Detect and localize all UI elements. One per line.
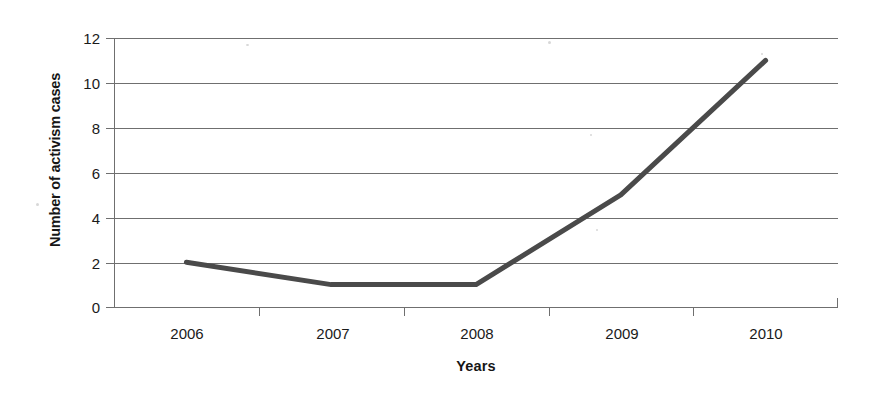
series-line-activism-cases bbox=[186, 60, 765, 284]
chart-figure: Number of activism cases 12 10 8 6 4 2 0… bbox=[0, 0, 884, 408]
x-axis-title: Years bbox=[114, 358, 838, 374]
data-series-layer bbox=[0, 0, 884, 408]
